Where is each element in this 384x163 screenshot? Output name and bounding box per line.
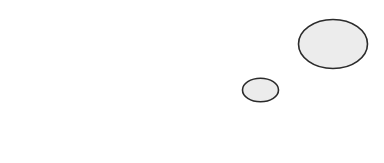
large-ellipse bbox=[299, 20, 368, 69]
small-ellipse bbox=[243, 78, 279, 102]
diagram-canvas bbox=[0, 0, 384, 163]
